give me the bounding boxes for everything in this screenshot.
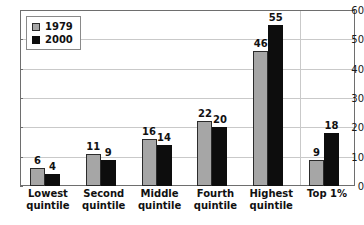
x-axis-category-label: Secondquintile: [76, 188, 132, 212]
bar-2000-fourth-quintile: [212, 127, 227, 186]
bar-value-label: 4: [41, 161, 64, 172]
x-axis-labels: LowestquintileSecondquintileMiddlequinti…: [20, 188, 355, 224]
y-axis-tick-mark: [20, 157, 23, 158]
x-axis-category-label: Lowestquintile: [20, 188, 76, 212]
y-axis-tick-mark: [20, 10, 23, 11]
y-axis-tick-label: 20: [346, 122, 364, 133]
y-axis-tick-label: 40: [346, 63, 364, 74]
legend-item-1979[interactable]: 1979: [32, 20, 73, 33]
y-axis-tick-mark: [20, 39, 23, 40]
bar-2000-highest-quintile: [268, 25, 283, 186]
x-axis-category-label: Middlequintile: [132, 188, 188, 212]
x-label-line-1: Second: [83, 188, 124, 199]
bar-1979-fourth-quintile: [197, 121, 212, 186]
x-label-line-1: Lowest: [28, 188, 68, 199]
x-label-line-2: quintile: [243, 200, 299, 212]
bar-value-label: 18: [320, 120, 343, 131]
bar-value-label: 14: [153, 132, 176, 143]
bar-1979-middle-quintile: [142, 139, 157, 186]
bar-2000-top-1-: [324, 133, 339, 186]
x-label-line-1: Middle: [141, 188, 179, 199]
bar-value-label: 9: [97, 147, 120, 158]
y-axis-tick-label: 50: [346, 34, 364, 45]
legend-item-2000[interactable]: 2000: [32, 33, 73, 46]
x-label-line-2: quintile: [20, 200, 76, 212]
x-label-line-2: quintile: [188, 200, 244, 212]
legend-label-1979: 1979: [45, 22, 73, 32]
y-axis-tick-mark: [20, 186, 23, 187]
x-label-line-1: Fourth: [197, 188, 234, 199]
x-label-line-2: quintile: [132, 200, 188, 212]
y-axis-tick-mark: [20, 69, 23, 70]
bar-2000-middle-quintile: [157, 145, 172, 186]
y-axis-tick-label: 10: [346, 151, 364, 162]
bar-2000-second-quintile: [101, 160, 116, 186]
y-axis-tick-mark: [20, 98, 23, 99]
bar-value-label: 20: [208, 114, 231, 125]
bar-chart: 64119161422204655918 1979 2000 Lowestqui…: [0, 0, 364, 225]
x-axis-category-label: Highestquintile: [243, 188, 299, 212]
legend-swatch-icon-2000: [32, 36, 40, 44]
y-axis: [0, 10, 18, 186]
y-axis-tick-label: 30: [346, 93, 364, 104]
x-label-line-1: Highest: [249, 188, 293, 199]
bar-1979-highest-quintile: [253, 51, 268, 186]
bar-2000-lowest-quintile: [45, 174, 60, 186]
y-axis-tick-mark: [20, 127, 23, 128]
x-label-line-2: quintile: [76, 200, 132, 212]
bar-1979-top-1-: [309, 160, 324, 186]
chart-legend: 1979 2000: [26, 16, 81, 50]
y-axis-tick-label: 0: [346, 181, 364, 192]
y-axis-tick-label: 60: [346, 5, 364, 16]
bar-value-label: 55: [264, 12, 287, 23]
cut-off-title-strip: [0, 0, 364, 7]
bar-1979-second-quintile: [86, 154, 101, 186]
legend-label-2000: 2000: [45, 35, 73, 45]
x-axis-category-label: Fourthquintile: [188, 188, 244, 212]
legend-swatch-icon-1979: [32, 23, 40, 31]
x-label-line-1: Top 1%: [307, 188, 347, 199]
